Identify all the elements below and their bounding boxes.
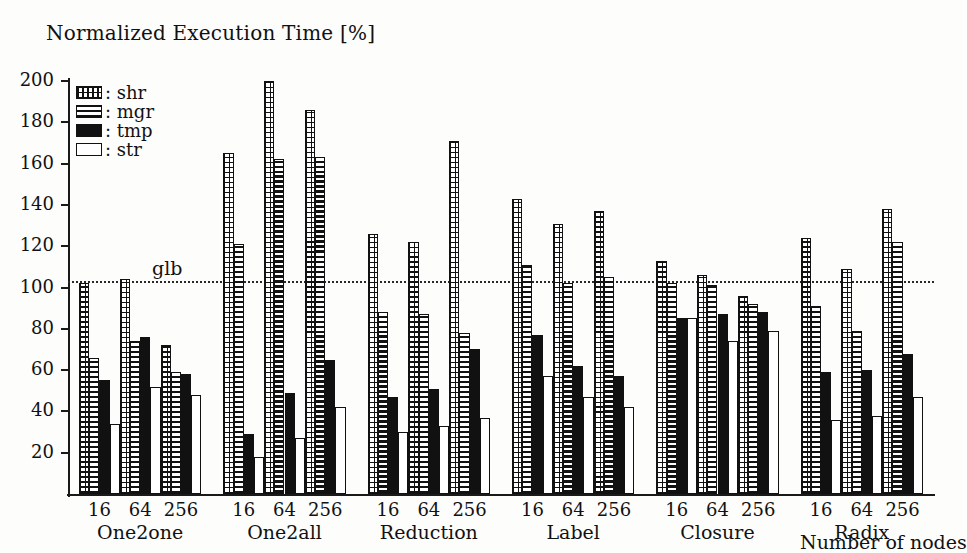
bar-label-16-tmp xyxy=(532,335,542,494)
bar-radix-64-shr xyxy=(841,269,851,494)
x-node-label: 256 xyxy=(303,499,347,520)
bar-radix-16-str xyxy=(831,420,841,494)
bar-one2one-256-str xyxy=(191,395,201,494)
x-node-label: 256 xyxy=(592,499,636,520)
bar-one2all-256-mgr xyxy=(315,157,325,494)
bar-one2one-256-mgr xyxy=(171,372,181,494)
bar-radix-256-shr xyxy=(882,209,892,494)
x-group-label-closure: Closure xyxy=(658,521,778,543)
bar-one2all-16-mgr xyxy=(234,244,244,494)
bar-reduction-256-mgr xyxy=(459,333,469,494)
x-group-label-one2one: One2one xyxy=(80,521,200,543)
legend-item-tmp: : tmp xyxy=(76,121,154,140)
bar-reduction-64-tmp xyxy=(429,389,439,494)
x-node-label: 16 xyxy=(222,499,266,520)
bar-one2one-16-tmp xyxy=(99,380,109,494)
y-tick-label: 100 xyxy=(8,276,54,297)
bar-label-64-shr xyxy=(553,224,563,495)
bar-radix-16-tmp xyxy=(821,372,831,494)
bar-closure-64-mgr xyxy=(707,285,717,494)
bar-closure-64-tmp xyxy=(718,314,728,494)
y-tick-label: 40 xyxy=(8,399,54,420)
x-node-label: 256 xyxy=(881,499,925,520)
bar-one2all-64-tmp xyxy=(285,393,295,494)
bar-closure-256-tmp xyxy=(758,312,768,494)
legend-swatch-str xyxy=(76,143,102,156)
legend-label-tmp: : tmp xyxy=(105,120,153,141)
x-node-label: 64 xyxy=(263,499,307,520)
x-node-label: 256 xyxy=(736,499,780,520)
bar-label-64-mgr xyxy=(563,283,573,494)
bar-one2all-64-shr xyxy=(264,81,274,494)
y-tick-label: 60 xyxy=(8,358,54,379)
bar-radix-256-str xyxy=(913,397,923,494)
y-tick-label: 160 xyxy=(8,152,54,173)
x-node-label: 64 xyxy=(696,499,740,520)
bar-label-256-mgr xyxy=(604,277,614,494)
legend: : shr: mgr: tmp: str xyxy=(76,83,154,159)
bar-one2all-64-str xyxy=(295,438,305,494)
bar-reduction-16-shr xyxy=(368,234,378,494)
bar-reduction-256-shr xyxy=(449,141,459,494)
bar-label-64-tmp xyxy=(573,366,583,494)
bar-reduction-256-str xyxy=(480,418,490,494)
bar-one2all-256-shr xyxy=(305,110,315,494)
bar-reduction-256-tmp xyxy=(470,349,480,494)
bar-closure-16-shr xyxy=(656,261,666,494)
bar-one2one-16-mgr xyxy=(89,358,99,494)
x-node-label: 16 xyxy=(510,499,554,520)
y-axis-title: Normalized Execution Time [%] xyxy=(46,21,375,45)
bar-label-16-mgr xyxy=(522,265,532,494)
bar-one2one-64-tmp xyxy=(140,337,150,494)
legend-label-str: : str xyxy=(105,139,142,160)
x-axis-line xyxy=(67,494,935,496)
bar-closure-16-str xyxy=(687,318,697,494)
legend-item-str: : str xyxy=(76,140,154,159)
x-node-label: 16 xyxy=(655,499,699,520)
legend-label-shr: : shr xyxy=(105,82,146,103)
x-node-label: 64 xyxy=(840,499,884,520)
bar-radix-256-tmp xyxy=(903,354,913,494)
bar-closure-256-str xyxy=(768,331,778,494)
bar-one2all-256-str xyxy=(335,407,345,494)
bar-one2one-256-shr xyxy=(161,345,171,494)
bar-label-256-str xyxy=(624,407,634,494)
y-tick-label: 120 xyxy=(8,234,54,255)
bar-one2all-16-shr xyxy=(223,153,233,494)
bar-one2one-16-shr xyxy=(79,283,89,494)
legend-swatch-tmp xyxy=(76,124,102,137)
bar-label-16-shr xyxy=(512,199,522,494)
bar-closure-64-str xyxy=(728,341,738,494)
bar-one2one-256-tmp xyxy=(181,374,191,494)
legend-item-mgr: : mgr xyxy=(76,102,154,121)
x-node-label: 16 xyxy=(366,499,410,520)
x-node-label: 64 xyxy=(407,499,451,520)
plot-area xyxy=(68,81,934,494)
x-axis-title: Number of nodes xyxy=(800,531,967,553)
bar-reduction-64-shr xyxy=(408,242,418,494)
bar-one2one-64-mgr xyxy=(130,341,140,494)
y-tick-label: 200 xyxy=(8,69,54,90)
y-tick-label: 140 xyxy=(8,193,54,214)
bar-radix-16-shr xyxy=(801,238,811,494)
y-tick-label: 80 xyxy=(8,317,54,338)
bar-label-256-tmp xyxy=(614,376,624,494)
bar-reduction-64-mgr xyxy=(419,314,429,494)
bar-closure-64-shr xyxy=(697,275,707,494)
bar-one2all-256-tmp xyxy=(325,360,335,494)
bar-reduction-64-str xyxy=(439,426,449,494)
bar-reduction-16-tmp xyxy=(388,397,398,494)
bar-closure-16-mgr xyxy=(667,283,677,494)
x-node-label: 64 xyxy=(551,499,595,520)
bar-one2all-16-tmp xyxy=(244,434,254,494)
bar-label-256-shr xyxy=(594,211,604,494)
legend-swatch-mgr xyxy=(76,105,102,118)
x-node-label: 256 xyxy=(159,499,203,520)
x-node-label: 256 xyxy=(448,499,492,520)
x-node-label: 16 xyxy=(799,499,843,520)
legend-label-mgr: : mgr xyxy=(105,101,154,122)
x-node-label: 64 xyxy=(118,499,162,520)
bar-radix-64-str xyxy=(872,416,882,494)
bar-one2one-64-shr xyxy=(120,279,130,494)
